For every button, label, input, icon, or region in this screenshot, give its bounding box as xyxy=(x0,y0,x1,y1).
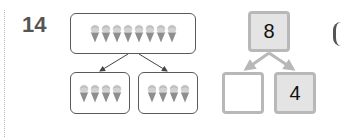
ice-cream-cone-icon xyxy=(90,84,100,103)
ice-cream-cone-icon xyxy=(180,84,190,103)
ice-cream-cone-icon xyxy=(79,84,89,103)
ice-cream-cone-icon xyxy=(112,24,122,43)
ice-cream-cone-icon xyxy=(167,24,177,43)
ice-cream-cone-icon xyxy=(101,84,111,103)
arrow-left-icon xyxy=(100,54,128,71)
ice-cream-cone-icon xyxy=(169,84,179,103)
whole-picture-box xyxy=(70,13,196,54)
bond-whole-value: 8 xyxy=(263,20,274,43)
bond-part-right-value: 4 xyxy=(289,82,300,105)
bond-whole-box: 8 xyxy=(248,11,290,52)
bond-arrow-right-icon xyxy=(269,53,293,69)
next-problem-edge-mark xyxy=(333,22,344,46)
part-left-picture-box xyxy=(70,72,130,114)
bond-part-right-box: 4 xyxy=(274,72,316,114)
part-right-picture-box xyxy=(138,72,198,114)
ice-cream-cone-icon xyxy=(147,84,157,103)
ice-cream-cone-icon xyxy=(145,24,155,43)
ice-cream-cone-icon xyxy=(158,84,168,103)
ice-cream-cone-icon xyxy=(134,24,144,43)
ice-cream-cone-icon xyxy=(112,84,122,103)
ice-cream-cone-icon xyxy=(156,24,166,43)
arrow-right-icon xyxy=(139,54,167,71)
bond-arrow-left-icon xyxy=(246,53,269,69)
bond-part-left-input[interactable] xyxy=(222,72,264,114)
ice-cream-cone-icon xyxy=(123,24,133,43)
ice-cream-cone-icon xyxy=(101,24,111,43)
ice-cream-cone-icon xyxy=(90,24,100,43)
